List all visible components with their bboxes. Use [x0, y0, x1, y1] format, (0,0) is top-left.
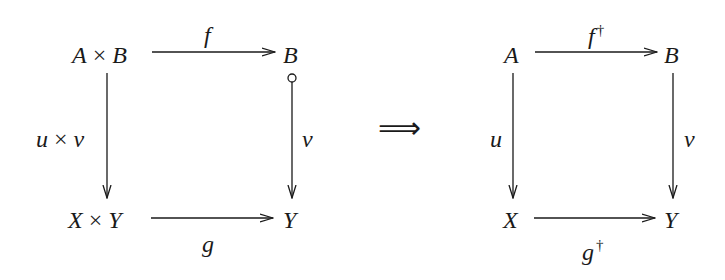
implies-arrow-icon: ⟹: [378, 110, 421, 145]
node-a-times-b: A×B: [70, 42, 127, 68]
node-x-times-y: X×Y: [67, 207, 124, 233]
label-u: u: [490, 126, 502, 152]
node-y: Y: [283, 207, 299, 233]
label-v: v: [302, 126, 313, 152]
left-diagram: A×B B X×Y Y f u×v v g: [36, 22, 313, 257]
label-f-dagger: f†: [588, 22, 605, 49]
label-v: v: [684, 126, 695, 152]
node-x: X: [502, 207, 519, 233]
label-g-dagger: g†: [582, 237, 604, 265]
circle-tail-icon: [288, 74, 296, 82]
node-b: B: [283, 42, 298, 68]
node-a: A: [502, 42, 519, 68]
commutative-diagrams: A×B B X×Y Y f u×v v g ⟹ A B X Y f† u v g…: [0, 0, 725, 280]
right-diagram: A B X Y f† u v g†: [490, 22, 695, 265]
node-y: Y: [664, 207, 680, 233]
label-f: f: [204, 22, 214, 48]
node-b: B: [664, 42, 679, 68]
label-g: g: [202, 231, 214, 257]
label-u-times-v: u×v: [36, 126, 85, 152]
